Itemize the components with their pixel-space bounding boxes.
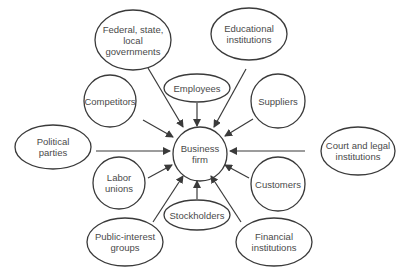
node-label: Suppliers [258, 96, 298, 107]
node-label: Federal, state, local governments [103, 24, 164, 57]
node-public-interest-groups: Public-interest groups [87, 218, 163, 266]
node-labor-unions: Labor unions [93, 157, 145, 209]
node-label: Labor unions [105, 172, 133, 194]
node-financial-institutions: Financial institutions [236, 218, 312, 266]
node-label: Employees [174, 83, 221, 94]
node-suppliers: Suppliers [251, 74, 305, 128]
node-federal-governments: Federal, state, local governments [95, 10, 171, 70]
node-stockholders: Stockholders [164, 200, 230, 230]
node-label: Customers [255, 179, 301, 190]
arrow-customers-to-business-firm [225, 165, 249, 178]
node-label: Court and legal institutions [326, 140, 390, 162]
node-label: Educational institutions [224, 23, 274, 45]
node-label: Political parties [37, 136, 70, 158]
arrow-competitors-to-business-firm [143, 120, 173, 137]
node-educational-institutions: Educational institutions [211, 8, 287, 60]
arrow-suppliers-to-business-firm [225, 119, 253, 136]
stakeholder-diagram: Business firmFederal, state, local gover… [0, 0, 396, 276]
node-political-parties: Political parties [15, 125, 91, 169]
node-label: Stockholders [170, 210, 225, 221]
arrow-labor-unions-to-business-firm [148, 165, 172, 178]
node-employees: Employees [164, 74, 230, 102]
node-competitors: Competitors [84, 75, 136, 127]
node-label: Business firm [181, 143, 220, 165]
node-business-firm: Business firm [173, 127, 227, 181]
node-label: Public-interest groups [95, 231, 155, 253]
node-label: Financial institutions [252, 231, 297, 253]
node-label: Competitors [84, 96, 135, 107]
node-customers: Customers [251, 157, 305, 211]
node-court-legal-institutions: Court and legal institutions [321, 127, 395, 175]
